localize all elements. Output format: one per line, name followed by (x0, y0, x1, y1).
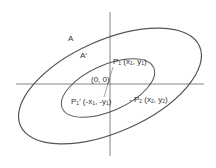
diagram-canvas (0, 0, 216, 168)
p2-open: (x (142, 95, 151, 104)
label-origin: (0, 0) (91, 76, 110, 84)
p1-open: (x (121, 57, 130, 66)
label-p2: - P2 (x2, y2) (129, 96, 168, 104)
p2-close: ) (165, 95, 168, 104)
p1p-mid: , -y (95, 97, 106, 106)
p2-mid: , y (154, 95, 162, 104)
label-a: A (68, 35, 73, 43)
p1-mid: , y (133, 57, 141, 66)
label-p1: P1 (x1, y1) (113, 58, 147, 66)
p1p-close: ) (109, 97, 112, 106)
p1p-open: (-x (81, 97, 93, 106)
label-p1-prime: P1′ (-x1, -y1) (71, 98, 112, 106)
label-a-prime: A′ (80, 52, 87, 60)
p1-close: ) (144, 57, 147, 66)
outer-ellipse-a (2, 4, 216, 168)
